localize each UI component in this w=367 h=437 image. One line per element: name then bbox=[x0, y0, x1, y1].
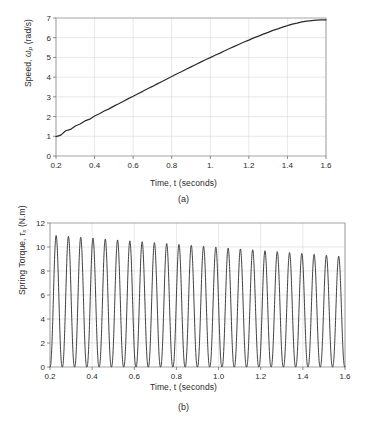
plot-svg-a bbox=[0, 0, 367, 180]
x-axis-label-b: Time, t (seconds) bbox=[0, 382, 367, 392]
x-tick-b-4: 1.0 bbox=[213, 372, 224, 381]
x-tick-a-4: 1. bbox=[207, 161, 214, 170]
chart-panel-b: Spring Torque, τs (N.m) 0.20.40.60.81.01… bbox=[0, 212, 367, 437]
x-tick-b-5: 1.2 bbox=[255, 372, 266, 381]
x-axis-label-a: Time, t (seconds) bbox=[0, 178, 367, 188]
y-tick-b-1: 2 bbox=[28, 339, 45, 348]
y-tick-b-0: 0 bbox=[28, 363, 45, 372]
plot-svg-b bbox=[0, 212, 367, 382]
y-tick-b-3: 6 bbox=[28, 291, 45, 300]
x-tick-b-3: 0.8 bbox=[171, 372, 182, 381]
y-tick-b-5: 10 bbox=[28, 243, 45, 252]
subcaption-a: (a) bbox=[0, 194, 367, 204]
x-tick-a-0: 0.2 bbox=[50, 161, 61, 170]
y-tick-a-6: 6 bbox=[34, 33, 51, 42]
x-tick-b-1: 0.4 bbox=[87, 372, 98, 381]
y-tick-a-7: 7 bbox=[34, 14, 51, 23]
y-tick-a-0: 0 bbox=[34, 152, 51, 161]
y-tick-b-4: 8 bbox=[28, 267, 45, 276]
y-tick-a-3: 3 bbox=[34, 92, 51, 101]
x-tick-b-6: 1.4 bbox=[297, 372, 308, 381]
x-tick-a-3: 0.8 bbox=[166, 161, 177, 170]
plot-b: Spring Torque, τs (N.m) 0.20.40.60.81.01… bbox=[0, 212, 367, 437]
y-tick-a-1: 1 bbox=[34, 132, 51, 141]
figure-container: Speed, ωp (rad/s) 0.20.40.60.81.1.21.41.… bbox=[0, 0, 367, 437]
subcaption-b: (b) bbox=[0, 402, 367, 412]
x-tick-b-7: 1.6 bbox=[339, 372, 350, 381]
x-tick-b-0: 0.2 bbox=[44, 372, 55, 381]
x-tick-a-6: 1.4 bbox=[282, 161, 293, 170]
x-tick-a-2: 0.6 bbox=[128, 161, 139, 170]
x-tick-a-1: 0.4 bbox=[89, 161, 100, 170]
y-tick-b-2: 4 bbox=[28, 315, 45, 324]
x-tick-b-2: 0.6 bbox=[129, 372, 140, 381]
y-tick-a-4: 4 bbox=[34, 73, 51, 82]
y-tick-a-2: 2 bbox=[34, 112, 51, 121]
plot-a: Speed, ωp (rad/s) 0.20.40.60.81.1.21.41.… bbox=[0, 0, 367, 212]
y-tick-b-6: 12 bbox=[28, 219, 45, 228]
x-tick-a-5: 1.2 bbox=[243, 161, 254, 170]
y-tick-a-5: 5 bbox=[34, 53, 51, 62]
chart-panel-a: Speed, ωp (rad/s) 0.20.40.60.81.1.21.41.… bbox=[0, 0, 367, 212]
x-tick-a-7: 1.6 bbox=[320, 161, 331, 170]
